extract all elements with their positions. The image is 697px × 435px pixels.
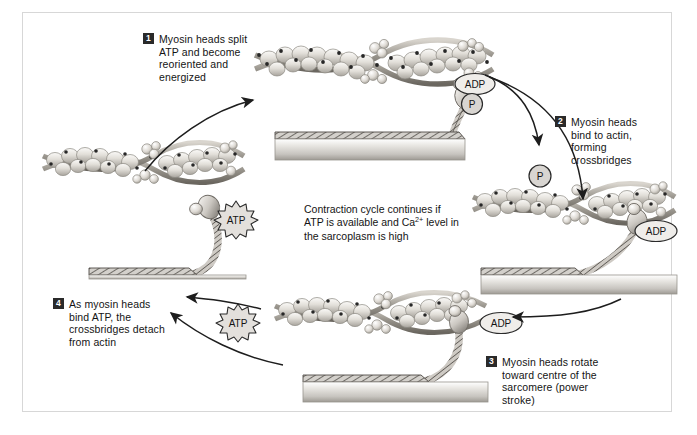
step-1-line-4: energized [159,71,206,83]
step-2-line-2: bind to actin, [571,129,632,141]
figure-frame: ADP P [22,12,672,412]
arrow-3-to-4b [187,297,261,309]
step-1-line-1: Myosin heads split [159,33,247,45]
muscle-contraction-cycle-figure: ADP P [0,0,697,435]
step-2-line-4: crossbridges [571,154,632,166]
step-2-line-1: Myosin heads [571,116,637,128]
step-2-number: 2 [555,116,566,127]
arrow-release-adp [513,299,621,317]
center-note-line-3: the sarcoplasm is high [304,230,408,242]
center-note: Contraction cycle continues ifATP is ava… [304,203,472,243]
center-note-line-2a: ATP is available and Ca [304,216,415,228]
step-2-label: 2Myosin headsbind to actin,formingcrossb… [555,116,667,166]
center-note-line-2b: level in [423,216,459,228]
step-1-line-2: ATP and become [159,46,241,58]
step-1-number: 1 [143,33,154,44]
arrow-4-to-1 [145,100,253,171]
step-3-line-4: stroke) [502,394,535,406]
step-4-label: 4As myosin headsbind ATP, thecrossbridge… [53,298,193,348]
step-4-line-3: crossbridges detach [69,323,165,335]
step-4-line-1: As myosin heads [69,298,150,310]
step-4-number: 4 [53,298,64,309]
step-1-line-3: reoriented and [159,58,228,70]
arrow-release-p [485,75,539,145]
step-4-line-2: bind ATP, the [69,311,131,323]
step-3-line-2: toward centre of the [502,369,597,381]
step-3-number: 3 [486,356,497,367]
step-3-label: 3Myosin heads rotatetoward centre of the… [486,356,636,406]
step-4-line-4: from actin [69,336,116,348]
step-3-line-3: sarcomere (power [502,381,588,393]
step-1-label: 1Myosin heads splitATP and becomereorien… [143,33,269,83]
step-3-line-1: Myosin heads rotate [502,356,598,368]
center-note-line-1: Contraction cycle continues if [304,203,441,215]
step-2-line-3: forming [571,141,607,153]
